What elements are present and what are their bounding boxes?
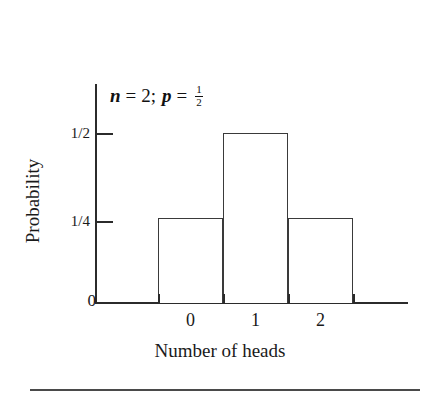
bar-category-2 xyxy=(288,218,353,303)
x-tick-label-1: 1 xyxy=(241,311,271,329)
y-axis-title: Probability xyxy=(22,121,44,281)
x-tick-label-2: 2 xyxy=(306,311,336,329)
annotation-equals-2: = xyxy=(177,86,188,105)
binomial-distribution-figure: 1/2 1/4 0 0 1 2 n = 2 ; p = 1 2 Number o… xyxy=(0,0,440,401)
y-tick-label-zero: 0 xyxy=(56,292,96,309)
annotation-equals-1: = xyxy=(126,86,137,105)
x-tick-mark-left-edge xyxy=(158,294,160,303)
x-tick-mark-boundary-2 xyxy=(288,294,290,303)
annotation-p-denominator: 2 xyxy=(195,96,203,109)
y-tick-mark-quarter xyxy=(97,221,113,223)
y-axis-line xyxy=(95,84,97,304)
parameters-annotation: n = 2 ; p = 1 2 xyxy=(110,83,203,107)
y-tick-label-half: 1/2 xyxy=(50,126,90,141)
annotation-p-numerator: 1 xyxy=(195,84,203,96)
x-tick-label-0: 0 xyxy=(176,311,206,329)
x-tick-mark-right-edge xyxy=(353,294,355,303)
bar-category-1 xyxy=(223,133,288,303)
y-tick-mark-half xyxy=(97,133,113,135)
annotation-n-variable: n xyxy=(110,86,121,105)
annotation-n-value: 2 xyxy=(141,86,151,105)
x-axis-title: Number of heads xyxy=(0,340,440,362)
annotation-separator: ; xyxy=(151,86,156,105)
y-tick-label-quarter: 1/4 xyxy=(50,214,90,229)
annotation-p-variable: p xyxy=(162,86,172,105)
x-tick-mark-boundary-1 xyxy=(223,294,225,303)
bottom-divider-rule xyxy=(30,389,420,391)
bar-category-0 xyxy=(158,218,223,303)
annotation-p-fraction: 1 2 xyxy=(195,84,203,108)
